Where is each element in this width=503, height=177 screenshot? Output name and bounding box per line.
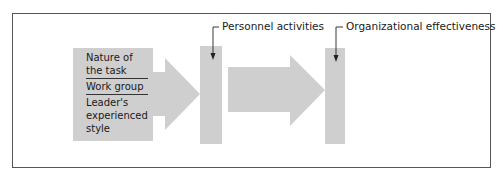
label-personnel-activities: Personnel activities bbox=[222, 20, 324, 32]
flow-arrow-2 bbox=[228, 55, 325, 126]
input-factors-box: Nature of the task Work group Leader's e… bbox=[73, 48, 153, 141]
divider bbox=[86, 94, 148, 95]
stage-bar-organizational-effectiveness bbox=[325, 48, 345, 144]
label-organizational-effectiveness: Organizational effectiveness bbox=[346, 20, 496, 32]
flow-arrow-1 bbox=[153, 58, 200, 130]
factor-work-group: Work group bbox=[86, 80, 147, 93]
factor-nature-of-task: Nature of the task bbox=[86, 51, 147, 77]
factor-leader-style: Leader's experienced style bbox=[86, 96, 147, 135]
stage-bar-personnel-activities bbox=[200, 46, 222, 144]
divider bbox=[86, 78, 148, 79]
